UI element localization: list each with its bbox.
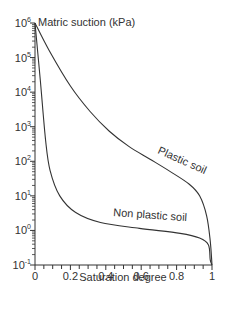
y-tick-label: 10-1 <box>13 258 32 271</box>
x-tick-label: 1 <box>209 270 215 282</box>
non-plastic-soil-curve <box>35 23 212 265</box>
x-tick-label: 0.8 <box>169 270 184 282</box>
y-tick-label: 105 <box>15 51 31 64</box>
plastic-soil-label: Plastic soil <box>156 144 208 176</box>
non-plastic-soil-label: Non plastic soil <box>113 206 188 223</box>
y-tick-label: 106 <box>15 16 31 29</box>
axes <box>35 23 212 265</box>
y-axis-title: Matric suction (kPa) <box>38 16 135 28</box>
curves <box>35 23 212 265</box>
y-tick-label: 103 <box>15 120 31 133</box>
plastic-soil-curve <box>35 23 212 265</box>
y-tick-label: 104 <box>15 85 31 98</box>
y-ticks: 10610510410310210110010-1 <box>13 16 35 271</box>
x-tick-label: 0.2 <box>63 270 78 282</box>
y-tick-label: 101 <box>15 189 31 202</box>
soil-water-retention-chart: 10610510410310210110010-1 00.20.40.60.81… <box>0 0 225 313</box>
x-axis-title: Saturation degree <box>79 271 166 283</box>
y-tick-label: 102 <box>15 154 31 167</box>
x-tick-label: 0 <box>32 270 38 282</box>
y-tick-label: 100 <box>15 223 31 236</box>
